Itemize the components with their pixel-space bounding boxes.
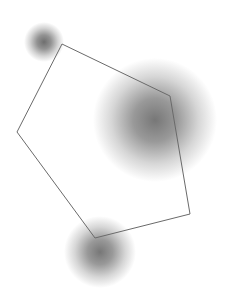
blur-blob	[64, 216, 136, 288]
blur-blob	[24, 22, 64, 62]
blur-blob	[93, 58, 217, 182]
diagram-canvas	[0, 0, 232, 308]
